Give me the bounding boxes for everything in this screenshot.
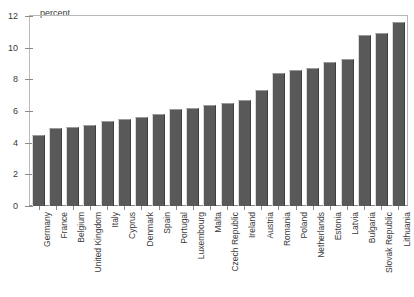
x-tick-label: Belgium xyxy=(76,212,86,243)
x-tick-label: Slovak Republic xyxy=(384,212,394,273)
x-tick-mark xyxy=(244,206,245,210)
x-tick-label: Denmark xyxy=(145,212,155,246)
bar xyxy=(49,128,62,206)
bar xyxy=(118,119,131,206)
x-tick-label: France xyxy=(59,212,69,238)
y-tick-label: 8 xyxy=(13,74,18,84)
x-tick-label: Cyprus xyxy=(127,212,137,239)
x-tick-label: Luxembourg xyxy=(196,212,206,259)
x-tick-mark xyxy=(124,206,125,210)
x-tick-mark xyxy=(210,206,211,210)
x-tick-mark xyxy=(141,206,142,210)
x-tick-label: Germany xyxy=(42,212,52,247)
x-tick-label: Estonia xyxy=(333,212,343,240)
y-tick-label: 0 xyxy=(13,201,18,211)
bar xyxy=(32,135,45,206)
x-tick-label: Poland xyxy=(299,212,309,238)
bar xyxy=(101,121,114,207)
x-tick-mark xyxy=(90,206,91,210)
y-tick-label: 12 xyxy=(8,11,18,21)
x-tick-label: Romania xyxy=(282,212,292,246)
chart-screenshot: percent 024681012 GermanyFranceBelgiumUn… xyxy=(0,0,414,297)
bar xyxy=(221,103,234,206)
bar xyxy=(238,100,251,206)
x-tick-mark xyxy=(193,206,194,210)
x-tick-label: Czech Republic xyxy=(230,212,240,272)
x-tick-label: United Kingdom xyxy=(93,212,103,272)
x-tick-mark xyxy=(313,206,314,210)
x-tick-mark xyxy=(278,206,279,210)
bar xyxy=(66,127,79,206)
x-tick-mark xyxy=(107,206,108,210)
x-tick-label: Spain xyxy=(162,212,172,234)
bar xyxy=(306,68,319,206)
x-tick-label: Austria xyxy=(265,212,275,238)
bar-series xyxy=(30,16,407,206)
x-tick-label: Malta xyxy=(213,212,223,233)
x-tick-mark xyxy=(227,206,228,210)
x-tick-mark xyxy=(381,206,382,210)
x-tick-mark xyxy=(73,206,74,210)
x-tick-label: Bulgaria xyxy=(367,212,377,243)
bar xyxy=(83,125,96,206)
x-tick-mark xyxy=(398,206,399,210)
x-tick-mark xyxy=(159,206,160,210)
x-axis: GermanyFranceBelgiumUnited KingdomItalyC… xyxy=(30,206,407,297)
bar xyxy=(152,114,165,206)
bar xyxy=(135,117,148,206)
x-tick-mark xyxy=(364,206,365,210)
y-tick-label: 2 xyxy=(13,169,18,179)
bar xyxy=(358,35,371,206)
x-tick-label: Latvia xyxy=(350,212,360,235)
x-tick-label: Lithuania xyxy=(402,212,412,247)
x-tick-mark xyxy=(176,206,177,210)
x-tick-label: Ireland xyxy=(247,212,257,238)
bar xyxy=(323,62,336,206)
bar xyxy=(375,33,388,206)
bar xyxy=(169,109,182,206)
y-tick-label: 6 xyxy=(13,106,18,116)
x-tick-mark xyxy=(296,206,297,210)
y-tick-label: 4 xyxy=(13,138,18,148)
bar xyxy=(341,59,354,206)
x-tick-mark xyxy=(39,206,40,210)
x-tick-label: Netherlands xyxy=(316,212,326,258)
bar xyxy=(289,70,302,206)
x-tick-mark xyxy=(347,206,348,210)
x-tick-label: Italy xyxy=(110,212,120,228)
bar xyxy=(392,22,405,206)
x-tick-label: Portugal xyxy=(179,212,189,244)
x-tick-mark xyxy=(56,206,57,210)
x-tick-mark xyxy=(261,206,262,210)
y-axis: 024681012 xyxy=(0,0,30,297)
x-tick-mark xyxy=(330,206,331,210)
bar xyxy=(272,73,285,206)
bar xyxy=(186,108,199,206)
bar xyxy=(255,90,268,206)
y-tick-label: 10 xyxy=(8,43,18,53)
bar xyxy=(203,105,216,206)
